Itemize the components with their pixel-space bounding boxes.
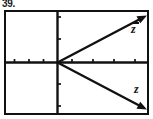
vector-z (58, 63, 144, 108)
plot-frame (4, 10, 149, 115)
z-label: z (134, 84, 139, 95)
problem-number: 39. (2, 0, 15, 10)
z-conjugate-label: z (131, 22, 139, 35)
complex-plane-plot (6, 12, 147, 113)
figure-root: 39. (0, 0, 153, 119)
z-label-text: z (134, 82, 139, 96)
z-conjugate-label-text: z (131, 22, 136, 36)
